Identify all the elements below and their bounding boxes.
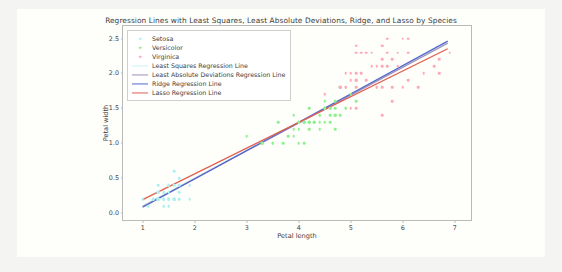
scatter-point [157, 184, 160, 187]
dot-glyph-icon [139, 55, 142, 58]
y-tick-mark [121, 178, 124, 179]
y-tick-label: 0.0 [109, 209, 119, 217]
x-tick-label: 7 [453, 224, 457, 232]
scatter-point [407, 79, 410, 82]
scatter-point [297, 128, 300, 131]
scatter-point [396, 51, 399, 54]
scatter-point [323, 107, 326, 110]
scatter-point [292, 114, 295, 117]
scatter-point [308, 121, 311, 124]
scatter-point [147, 205, 150, 208]
scatter-point [329, 114, 332, 117]
scatter-point [349, 72, 352, 75]
legend-item-label: Least Absolute Deviations Regression Lin… [152, 70, 285, 79]
scatter-point [355, 107, 358, 110]
y-tick-mark [121, 108, 124, 109]
x-tick-mark [194, 220, 195, 223]
scatter-point [407, 51, 410, 54]
scatter-point [355, 79, 358, 82]
scatter-point [349, 93, 352, 96]
scatter-point [167, 184, 170, 187]
scatter-point [344, 86, 347, 89]
line-glyph-icon [132, 83, 148, 84]
scatter-point [386, 51, 389, 54]
scatter-point [318, 114, 321, 117]
x-tick-mark [402, 220, 403, 223]
scatter-point [355, 86, 358, 89]
scatter-point [407, 37, 410, 40]
scatter-point [339, 114, 342, 117]
scatter-point [381, 114, 384, 117]
scatter-point [417, 86, 420, 89]
scatter-point [334, 114, 337, 117]
legend-marker-swatch [132, 52, 148, 61]
scatter-point [178, 191, 181, 194]
scatter-point [308, 107, 311, 110]
scatter-point [370, 65, 373, 68]
scatter-point [141, 198, 144, 201]
legend-line-swatch [132, 61, 148, 70]
scatter-point [355, 72, 358, 75]
scatter-point [381, 65, 384, 68]
x-tick-mark [454, 220, 455, 223]
x-tick-label: 1 [141, 224, 145, 232]
scatter-point [323, 93, 326, 96]
x-axis-label: Petal length [277, 232, 316, 240]
scatter-point [329, 121, 332, 124]
legend-item-label: Setosa [152, 34, 173, 43]
scatter-point [360, 72, 363, 75]
scatter-point [261, 142, 264, 145]
scatter-point [360, 51, 363, 54]
scatter-point [323, 121, 326, 124]
scatter-point [178, 198, 181, 201]
scatter-point [365, 79, 368, 82]
dot-glyph-icon [139, 37, 142, 40]
screenshot-background: Regression Lines with Least Squares, Lea… [0, 0, 562, 272]
scatter-point [162, 191, 165, 194]
scatter-point [162, 198, 165, 201]
scatter-point [349, 79, 352, 82]
plot-axes: 0.00.51.01.52.02.5 1234567 Petal length … [122, 25, 472, 221]
chart-legend: SetosaVersicolorVirginicaLeast Squares R… [127, 30, 291, 101]
scatter-point [157, 198, 160, 201]
scatter-point [188, 198, 191, 201]
y-tick-label: 2.5 [109, 35, 119, 43]
scatter-point [308, 128, 311, 131]
legend-item[interactable]: Ridge Regression Line [132, 79, 285, 88]
legend-line-swatch [132, 79, 148, 88]
y-tick-label: 2.0 [109, 69, 119, 77]
x-tick-mark [246, 220, 247, 223]
scatter-point [318, 128, 321, 131]
scatter-point [167, 191, 170, 194]
legend-line-swatch [132, 70, 148, 79]
line-glyph-icon [132, 74, 148, 75]
legend-item[interactable]: Least Squares Regression Line [132, 61, 285, 70]
scatter-point [178, 184, 181, 187]
dot-glyph-icon [139, 46, 142, 49]
scatter-point [381, 44, 384, 47]
legend-item[interactable]: Virginica [132, 52, 285, 61]
scatter-point [162, 205, 165, 208]
scatter-point [422, 72, 425, 75]
scatter-point [157, 191, 160, 194]
scatter-point [173, 198, 176, 201]
scatter-point [167, 205, 170, 208]
y-tick-mark [121, 38, 124, 39]
legend-item[interactable]: Setosa [132, 34, 285, 43]
scatter-point [339, 86, 342, 89]
figure-canvas: Regression Lines with Least Squares, Lea… [17, 9, 545, 257]
y-tick-mark [121, 143, 124, 144]
scatter-point [173, 184, 176, 187]
scatter-point [318, 121, 321, 124]
legend-line-swatch [132, 88, 148, 97]
legend-item[interactable]: Lasso Regression Line [132, 88, 285, 97]
scatter-point [271, 142, 274, 145]
scatter-point [391, 100, 394, 103]
scatter-point [438, 72, 441, 75]
legend-item[interactable]: Least Absolute Deviations Regression Lin… [132, 70, 285, 79]
x-tick-mark [142, 220, 143, 223]
scatter-point [297, 142, 300, 145]
scatter-point [438, 58, 441, 61]
legend-item[interactable]: Versicolor [132, 43, 285, 52]
x-tick-mark [350, 220, 351, 223]
